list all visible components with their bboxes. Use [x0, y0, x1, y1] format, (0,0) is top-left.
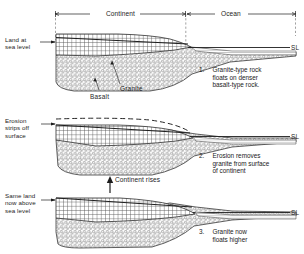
- panel-2-number: 2.: [199, 152, 206, 159]
- panel-1-number: 1.: [199, 66, 206, 73]
- sea-level-label-2: SL: [291, 133, 299, 140]
- span-label-ocean: Ocean: [221, 10, 241, 17]
- panel-1-caption-block: 1. Granite-type rock floats on denser ba…: [199, 66, 262, 89]
- rock-label-basalt: Basalt: [90, 93, 109, 100]
- panel-3-left-caption: Same land now above sea level: [5, 192, 36, 214]
- panel-2-caption: Erosion removes granite from surface of …: [213, 152, 270, 175]
- panel-1-left-caption: Land at sea level: [5, 36, 30, 51]
- span-label-continent: Continent: [106, 10, 135, 17]
- panel-3-number: 3.: [199, 228, 206, 235]
- panel-3-caption: Granite now floats higher: [213, 228, 248, 243]
- panel-3-caption-block: 3. Granite now floats higher: [199, 228, 247, 243]
- panel-2-left-caption: Erosion strips off surface: [5, 117, 29, 139]
- panel-3-graphic: [41, 176, 296, 248]
- sea-level-label-3: SL: [291, 209, 299, 216]
- panel-2-caption-block: 2. Erosion removes granite from surface …: [199, 152, 269, 175]
- panel-1-caption: Granite-type rock floats on denser basal…: [213, 66, 262, 89]
- rock-label-granite: Granite: [120, 85, 143, 92]
- continent-rises-annotation: Continent rises: [115, 176, 160, 183]
- sea-level-label-1: SL: [291, 44, 299, 51]
- isostasy-diagram-svg: [0, 0, 304, 254]
- diagram-canvas: Continent Ocean Land at sea level SL 1. …: [0, 0, 304, 254]
